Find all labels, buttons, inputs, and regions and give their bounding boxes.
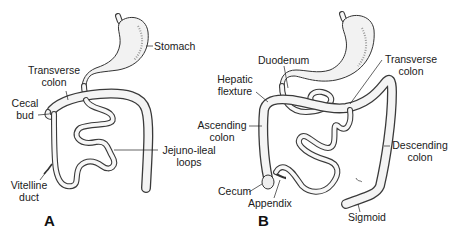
panel-a-drawing [38, 16, 158, 188]
label-jejuno-ileal-loops-2: loops [158, 157, 220, 168]
label-transverse-colon-a-2: colon [24, 77, 84, 88]
gut-rotation-illustration [0, 0, 452, 234]
label-transverse-colon-a-1: Transverse [24, 65, 84, 76]
label-vitelline-duct-2: duct [6, 192, 52, 203]
label-appendix: Appendix [248, 198, 292, 209]
panel-label-a: A [44, 212, 55, 229]
label-vitelline-duct-1: Vitelline [6, 180, 52, 191]
label-duodenum: Duodenum [258, 55, 309, 66]
label-jejuno-ileal-loops-1: Jejuno-ileal [158, 145, 220, 156]
panel-label-b: B [258, 212, 269, 229]
label-cecal-bud-1: Cecal [8, 98, 42, 109]
label-descending-colon-1: Descending [388, 140, 452, 151]
label-hepatic-flexture-2: flexture [212, 86, 258, 97]
label-hepatic-flexture-1: Hepatic [212, 74, 258, 85]
label-transverse-colon-b-1: Transverse [380, 54, 442, 65]
label-ascending-colon-2: colon [192, 132, 252, 143]
label-ascending-colon-1: Ascending [192, 120, 252, 131]
label-sigmoid: Sigmoid [348, 212, 386, 223]
label-cecal-bud-2: bud [8, 110, 42, 121]
label-stomach: Stomach [154, 41, 195, 52]
label-descending-colon-2: colon [388, 152, 452, 163]
label-transverse-colon-b-2: colon [380, 66, 442, 77]
stomach-b [280, 15, 374, 88]
panel-b-drawing [249, 14, 392, 212]
label-cecum: Cecum [218, 186, 251, 197]
